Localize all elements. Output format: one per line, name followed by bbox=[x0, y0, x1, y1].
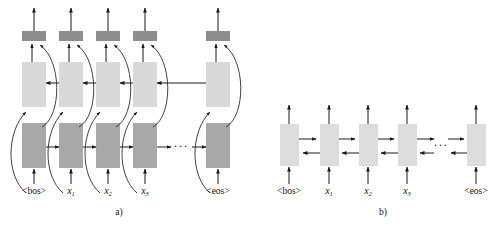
input-labels-panel-a: <bos> x1 x2 x3 <eos> bbox=[22, 185, 230, 197]
backward-cell-5[interactable] bbox=[206, 62, 230, 107]
bidir-output-arrows bbox=[289, 105, 476, 124]
backward-cell-4[interactable] bbox=[133, 62, 157, 107]
forward-cell-2[interactable] bbox=[59, 123, 83, 168]
panel-b: ··· <bos> x1 x2 x3 bbox=[277, 105, 488, 218]
bidirectional-layer bbox=[280, 124, 486, 166]
forward-cell-1[interactable] bbox=[22, 123, 46, 168]
bidirectional-rnn-figure: ··· bbox=[0, 0, 497, 231]
output-cell-5[interactable] bbox=[206, 31, 230, 41]
backward-cell-2[interactable] bbox=[59, 62, 83, 107]
bidir-cell-2[interactable] bbox=[320, 124, 339, 166]
bidir-cell-1[interactable] bbox=[280, 124, 299, 166]
input-labels-panel-b: <bos> x1 x2 x3 <eos> bbox=[277, 185, 488, 197]
bidir-ellipsis: ··· bbox=[434, 138, 449, 152]
panel-b-caption: b) bbox=[379, 207, 387, 218]
input-label-x1-b: x1 bbox=[324, 185, 333, 197]
output-arrows bbox=[34, 8, 218, 31]
bidir-cell-4[interactable] bbox=[398, 124, 417, 166]
diagram-canvas: ··· bbox=[0, 0, 497, 231]
bidir-cell-3[interactable] bbox=[359, 124, 378, 166]
forward-cell-4[interactable] bbox=[133, 123, 157, 168]
bidir-cell-5[interactable] bbox=[467, 124, 486, 166]
backward-cell-1[interactable] bbox=[22, 62, 46, 107]
backward-layer bbox=[22, 62, 230, 107]
input-label-x2-a: x2 bbox=[103, 185, 112, 197]
forward-cell-5[interactable] bbox=[206, 123, 230, 168]
input-label-bos-a: <bos> bbox=[22, 186, 46, 196]
forward-cell-3[interactable] bbox=[96, 123, 120, 168]
input-label-x2-b: x2 bbox=[363, 185, 372, 197]
panel-a: ··· bbox=[11, 8, 241, 218]
input-label-eos-b: <eos> bbox=[464, 186, 487, 196]
input-label-x1-a: x1 bbox=[66, 185, 75, 197]
input-arrows-panel-b bbox=[289, 167, 476, 184]
output-cell-3[interactable] bbox=[96, 31, 120, 41]
forward-ellipsis: ··· bbox=[174, 139, 189, 153]
output-cell-4[interactable] bbox=[133, 31, 157, 41]
output-cell-2[interactable] bbox=[59, 31, 83, 41]
input-label-bos-b: <bos> bbox=[277, 186, 301, 196]
input-label-x3-b: x3 bbox=[402, 185, 411, 197]
backward-to-output-arrows bbox=[32, 44, 216, 62]
panel-a-caption: a) bbox=[115, 207, 122, 218]
input-label-eos-a: <eos> bbox=[206, 186, 229, 196]
input-label-x3-a: x3 bbox=[140, 185, 149, 197]
output-cell-1[interactable] bbox=[22, 31, 46, 41]
backward-cell-3[interactable] bbox=[96, 62, 120, 107]
output-layer bbox=[22, 31, 230, 41]
